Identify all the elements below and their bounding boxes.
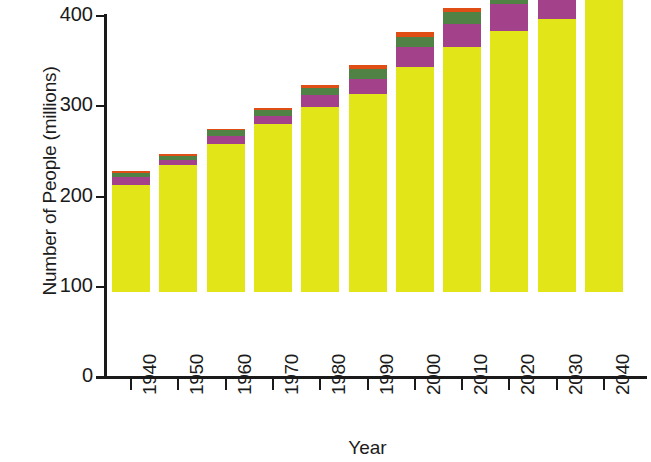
x-axis-tick — [225, 379, 227, 390]
bar-segment-segment-2-purple — [396, 47, 434, 68]
bar-segment-segment-1-yellow — [254, 124, 292, 292]
bar-2000 — [396, 32, 434, 292]
x-axis-tick — [177, 379, 179, 390]
bar-segment-segment-3-green — [301, 88, 339, 95]
x-axis-title-text: Year — [348, 437, 386, 458]
x-axis-tick — [130, 379, 132, 390]
bar-segment-segment-1-yellow — [159, 165, 197, 292]
bar-segment-segment-2-purple — [301, 95, 339, 107]
bar-segment-segment-1-yellow — [349, 94, 387, 292]
bar-segment-segment-1-yellow — [207, 144, 245, 292]
bar-2020 — [490, 0, 528, 292]
bar-segment-segment-2-purple — [538, 0, 576, 19]
x-axis-tick — [508, 379, 510, 390]
bar-segment-segment-1-yellow — [396, 67, 434, 292]
bar-segment-segment-3-green — [159, 156, 197, 161]
bar-segment-segment-3-green — [443, 12, 481, 24]
bar-segment-segment-3-green — [396, 37, 434, 47]
bar-1980 — [301, 85, 339, 292]
bar-1990 — [349, 65, 387, 292]
bar-1970 — [254, 108, 292, 292]
bar-segment-segment-4-orange — [443, 8, 481, 13]
bar-segment-segment-2-purple — [490, 4, 528, 31]
bar-segment-segment-1-yellow — [443, 47, 481, 292]
bar-segment-segment-4-orange — [254, 108, 292, 110]
bar-segment-segment-4-orange — [112, 171, 150, 173]
bar-segment-segment-1-yellow — [112, 185, 150, 292]
bar-segment-segment-4-orange — [159, 154, 197, 156]
bar-1960 — [207, 129, 245, 292]
bar-segment-segment-4-orange — [396, 32, 434, 37]
bar-2030 — [538, 0, 576, 292]
bar-segment-segment-4-orange — [207, 129, 245, 131]
bar-segment-segment-2-purple — [207, 136, 245, 144]
x-axis-tick — [272, 379, 274, 390]
bar-segment-segment-4-orange — [349, 65, 387, 69]
bar-segment-segment-2-purple — [159, 160, 197, 165]
bar-segment-segment-2-purple — [349, 79, 387, 94]
bar-1940 — [112, 171, 150, 292]
x-axis-tick — [414, 379, 416, 390]
x-axis-title: Year — [0, 437, 651, 459]
bar-segment-segment-2-purple — [112, 177, 150, 184]
x-axis-tick — [319, 379, 321, 390]
bar-segment-segment-3-green — [349, 69, 387, 79]
x-axis-tick — [603, 379, 605, 390]
bar-segment-segment-3-green — [112, 173, 150, 178]
bar-segment-segment-3-green — [207, 130, 245, 135]
bars-container — [0, 0, 651, 377]
bar-segment-segment-1-yellow — [585, 0, 623, 292]
bar-segment-segment-1-yellow — [490, 31, 528, 292]
x-axis-tick — [367, 379, 369, 390]
bar-segment-segment-3-green — [490, 0, 528, 4]
bar-segment-segment-1-yellow — [538, 19, 576, 292]
bar-segment-segment-1-yellow — [301, 107, 339, 292]
bar-segment-segment-2-purple — [254, 116, 292, 124]
bar-segment-segment-3-green — [254, 110, 292, 116]
x-axis-tick — [556, 379, 558, 390]
bar-2040 — [585, 0, 623, 292]
bar-segment-segment-2-purple — [443, 24, 481, 47]
bar-1950 — [159, 154, 197, 292]
bar-2010 — [443, 8, 481, 292]
x-axis-tick — [461, 379, 463, 390]
chart-figure: Number of People (millions) 010020030040… — [0, 0, 651, 462]
bar-segment-segment-4-orange — [301, 85, 339, 88]
